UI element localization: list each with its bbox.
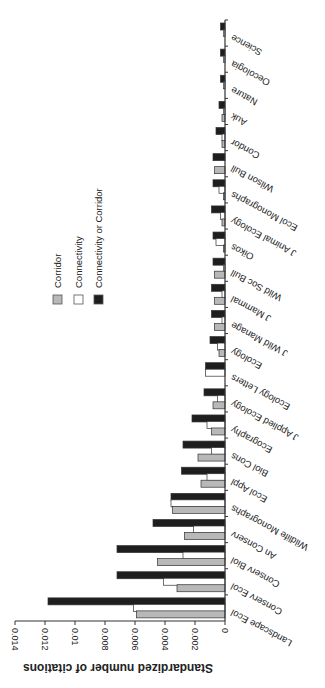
- bar: [218, 395, 226, 402]
- bar: [219, 186, 225, 193]
- category-group: [153, 519, 225, 539]
- category-group: [213, 258, 225, 278]
- category-group: [212, 310, 226, 330]
- bar: [192, 415, 225, 422]
- category-label: Landscape Ecol: [229, 607, 294, 648]
- bar: [212, 428, 226, 435]
- legend-label: Corridor: [52, 254, 63, 288]
- category-group: [117, 572, 225, 592]
- bar: [210, 337, 225, 344]
- bar: [213, 154, 225, 161]
- bar: [206, 363, 226, 370]
- legend: CorridorConnectivityConnectivity or Corr…: [52, 188, 104, 304]
- value-tick-label: 0.012: [40, 628, 50, 651]
- bar: [215, 271, 226, 278]
- bar: [212, 206, 226, 213]
- value-tick-label: 0.006: [130, 628, 140, 651]
- category-group: [182, 467, 226, 487]
- category-label: Condor: [229, 137, 262, 161]
- legend-swatch: [94, 295, 103, 304]
- bar-chart: Landscape EcolConserv EcolConserv BiolAn…: [0, 0, 325, 688]
- category-label: Oecologia: [228, 58, 272, 88]
- bar: [153, 519, 225, 526]
- value-tick-label: 0.008: [100, 628, 110, 651]
- bar: [215, 297, 226, 304]
- category-group: [213, 180, 225, 200]
- category-group: [212, 284, 226, 304]
- value-tick-label: 0.01: [70, 628, 80, 646]
- bar: [204, 389, 225, 396]
- bar: [216, 128, 225, 135]
- bar: [48, 598, 225, 605]
- bar: [215, 323, 226, 330]
- bar: [221, 212, 226, 219]
- bar: [215, 167, 226, 174]
- axes: Landscape EcolConserv EcolConserv BiolAn…: [10, 20, 310, 651]
- bar: [213, 258, 225, 265]
- bar: [164, 578, 226, 585]
- category-group: [212, 206, 226, 226]
- legend-label: Connectivity: [73, 236, 84, 288]
- category-group: [48, 598, 225, 618]
- bar: [219, 350, 225, 357]
- category-group: [219, 101, 225, 121]
- legend-swatch: [74, 295, 83, 304]
- category-group: [213, 232, 225, 252]
- category-group: [216, 128, 225, 148]
- bar: [117, 572, 225, 579]
- category-group: [221, 49, 226, 69]
- bar: [171, 500, 225, 507]
- bar: [212, 310, 226, 317]
- bar: [201, 480, 225, 487]
- category-label: Nature: [229, 85, 259, 108]
- bar: [173, 506, 226, 513]
- bar: [158, 559, 226, 566]
- category-label: Biol Cons: [229, 451, 270, 480]
- legend-swatch: [53, 295, 62, 304]
- category-group: [117, 546, 225, 566]
- category-group: [206, 363, 226, 383]
- category-label: Science: [229, 33, 264, 59]
- bar: [137, 611, 226, 618]
- value-tick-label: 0.004: [160, 628, 170, 651]
- bar: [212, 448, 226, 455]
- category-group: [210, 337, 225, 357]
- bar: [194, 526, 226, 533]
- plot-area: [48, 23, 225, 618]
- category-label: Ecol Appl: [229, 477, 269, 505]
- bar: [206, 369, 226, 376]
- bar: [117, 546, 225, 553]
- bar: [207, 474, 225, 481]
- bar: [213, 232, 225, 239]
- category-group: [213, 154, 225, 174]
- bar: [198, 454, 225, 461]
- bar: [171, 493, 225, 500]
- legend-label: Connectivity or Corridor: [93, 188, 104, 288]
- category-label: Wilson Bull: [229, 163, 276, 195]
- y-axis-title: Standardized number of citations: [23, 661, 213, 675]
- value-tick-label: 0.014: [10, 628, 20, 651]
- category-label: J Mammal: [229, 294, 273, 324]
- value-tick-label: 0: [220, 628, 230, 633]
- category-label: Ecology: [229, 346, 264, 372]
- bar: [216, 239, 225, 246]
- bar: [218, 343, 226, 350]
- category-group: [204, 389, 225, 409]
- category-label: Oikos: [229, 242, 256, 263]
- bar: [183, 441, 225, 448]
- category-group: [221, 75, 226, 95]
- value-tick-label: 0.002: [190, 628, 200, 651]
- bar: [207, 421, 225, 428]
- bar: [182, 467, 226, 474]
- bar: [221, 75, 226, 82]
- bar: [185, 532, 226, 539]
- bar: [212, 284, 226, 291]
- bar: [219, 101, 225, 108]
- category-group: [171, 493, 225, 513]
- bar: [177, 585, 225, 592]
- bar: [134, 604, 226, 611]
- bar: [183, 552, 225, 559]
- bar: [221, 23, 226, 30]
- bar: [221, 49, 226, 56]
- category-group: [192, 415, 225, 435]
